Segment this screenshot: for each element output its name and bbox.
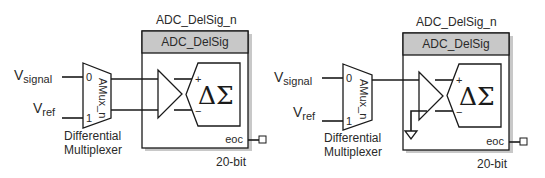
mux-port-1: 1 — [86, 112, 92, 124]
mux-port-0: 0 — [86, 71, 92, 83]
delta-sigma-symbol: ΔΣ — [459, 82, 495, 111]
resolution-label: 20-bit — [477, 157, 508, 171]
eoc-terminal-icon[interactable] — [520, 138, 527, 145]
left-diagram: Vsignal Vref 0 1 AMux_n Differential Mul… — [14, 13, 266, 169]
vref-label: Vref — [293, 104, 316, 122]
right-diagram: Vsignal Vref 0 1 AMux_n Differential Mul… — [274, 15, 527, 171]
mux-port-0: 0 — [346, 72, 352, 84]
vref-label: Vref — [33, 100, 56, 118]
eoc-pin-label: eoc — [486, 135, 504, 147]
eoc-terminal-icon[interactable] — [259, 136, 266, 143]
component-name: ADC_DelSig — [161, 35, 228, 49]
mux-caption-line1: Differential — [64, 129, 121, 143]
instance-name: ADC_DelSig_n — [416, 15, 497, 29]
mux-name: AMux_n — [358, 79, 370, 119]
mux-caption-line2: Multiplexer — [64, 143, 122, 157]
instance-name: ADC_DelSig_n — [156, 13, 237, 27]
mux-caption-line2: Multiplexer — [324, 145, 382, 159]
mux-caption-line1: Differential — [324, 131, 381, 145]
vsignal-label: Vsignal — [274, 69, 312, 87]
resolution-label: 20-bit — [216, 155, 247, 169]
component-name: ADC_DelSig — [422, 37, 489, 51]
mux-port-1: 1 — [346, 115, 352, 127]
delta-sigma-symbol: ΔΣ — [198, 81, 234, 110]
vsignal-label: Vsignal — [14, 67, 52, 85]
mux-name: AMux_n — [97, 78, 109, 118]
eoc-pin-label: eoc — [225, 133, 243, 145]
adc-diagram-canvas: Vsignal Vref 0 1 AMux_n Differential Mul… — [0, 0, 545, 178]
